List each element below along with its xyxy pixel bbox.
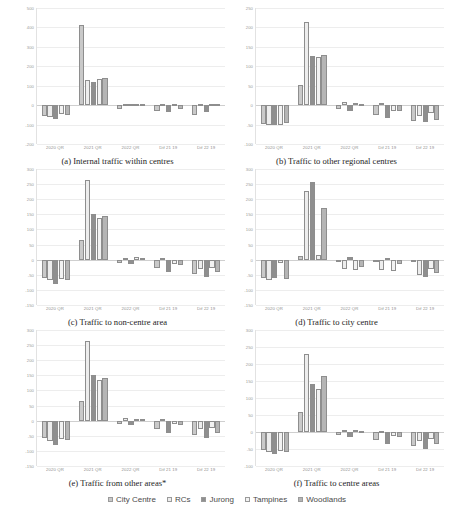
y-tick-label: 0 <box>251 430 253 435</box>
bar <box>91 82 96 105</box>
y-axis-b: 250200150100500-50-100 <box>229 8 255 144</box>
bar-slot <box>385 169 390 305</box>
bar-group <box>150 330 188 466</box>
bar <box>428 432 433 439</box>
legend-item: City Centre <box>108 495 156 504</box>
bar-slot <box>102 169 107 305</box>
bar-slot <box>278 169 283 305</box>
legend-label: RCs <box>175 495 191 504</box>
bar <box>266 260 271 280</box>
bar-group <box>369 169 407 305</box>
bar <box>209 260 214 268</box>
bar-slot <box>272 330 277 466</box>
bar-slot <box>304 8 309 144</box>
x-tick-label: 2020 QR <box>36 466 74 475</box>
bar-slot <box>91 330 96 466</box>
x-tick-label: Dif 21 19 <box>149 144 187 153</box>
chart-panel-c: 300250200150100500-50-100-1502020 QR2021… <box>8 167 227 328</box>
y-tick-label: -100 <box>25 287 34 292</box>
bar-slot <box>284 8 289 144</box>
x-tick-label: 2021 QR <box>74 144 112 153</box>
bar <box>192 260 197 275</box>
bar-slot <box>59 330 64 466</box>
bar-slot <box>134 330 139 466</box>
bar-slot <box>411 8 416 144</box>
bar-slot <box>298 169 303 305</box>
bar-slot <box>428 330 433 466</box>
bar-group <box>112 8 150 144</box>
y-tick-label: -50 <box>247 447 253 452</box>
bar-slot <box>385 330 390 466</box>
x-tick-label: Dif 22 19 <box>406 305 444 314</box>
bar-slot <box>266 8 271 144</box>
bar-slot <box>391 8 396 144</box>
legend-label: City Centre <box>116 495 156 504</box>
bar-slot <box>123 8 128 144</box>
y-tick-label: -50 <box>247 272 253 277</box>
x-tick-label: Dif 22 19 <box>187 466 225 475</box>
y-tick-label: 50 <box>248 413 253 418</box>
bar-slot <box>166 169 171 305</box>
y-tick-label: 100 <box>27 388 34 393</box>
bar-group <box>294 8 332 144</box>
panel-caption-e: (e) Traffic from other areas* <box>10 475 225 489</box>
bar-slot <box>342 8 347 144</box>
y-tick-label: 0 <box>32 103 34 108</box>
y-tick-label: 400 <box>27 25 34 30</box>
legend-swatch-icon <box>108 497 113 502</box>
bar-slot <box>385 8 390 144</box>
x-tick-label: 2021 QR <box>293 466 331 475</box>
bar <box>304 354 309 432</box>
y-tick-label: 200 <box>27 358 34 363</box>
y-tick-label: 50 <box>29 403 34 408</box>
bar-slot <box>316 330 321 466</box>
bar-slot <box>215 8 220 144</box>
bar <box>373 105 378 115</box>
bar <box>97 218 102 260</box>
bar-slot <box>65 8 70 144</box>
bar-slot <box>53 330 58 466</box>
bar-slot <box>411 330 416 466</box>
bar <box>298 256 303 260</box>
panel-grid: 5004003002001000-100-2002020 QR2021 QR20… <box>8 6 446 489</box>
bar <box>172 421 177 425</box>
bar <box>166 260 171 272</box>
bar-group <box>294 330 332 466</box>
bar <box>85 80 90 105</box>
bar-slot <box>128 169 133 305</box>
bar-group <box>406 8 444 144</box>
y-tick-label: 300 <box>27 44 34 49</box>
gridline <box>256 144 444 145</box>
bar-slot <box>428 169 433 305</box>
bar <box>336 105 341 109</box>
x-tick-label: 2021 QR <box>74 466 112 475</box>
bar <box>204 260 209 277</box>
bar-slot <box>310 8 315 144</box>
bar <box>411 105 416 121</box>
bar <box>411 260 416 262</box>
bar-slot <box>321 8 326 144</box>
bar <box>423 105 428 122</box>
bar-slot <box>417 169 422 305</box>
bar <box>128 260 133 264</box>
plot-canvas-d <box>255 169 444 305</box>
bar <box>134 419 139 421</box>
bar-slot <box>373 8 378 144</box>
bar-group <box>256 330 294 466</box>
bar <box>59 105 64 114</box>
y-tick-label: -50 <box>28 272 34 277</box>
chart-panel-a: 5004003002001000-100-2002020 QR2021 QR20… <box>8 6 227 167</box>
bar <box>178 105 183 109</box>
bar <box>178 421 183 426</box>
gridline <box>37 466 225 467</box>
bar <box>397 260 402 264</box>
bar-slot <box>321 330 326 466</box>
y-tick-label: 100 <box>246 227 253 232</box>
bar-slot <box>423 169 428 305</box>
bar-slot <box>379 169 384 305</box>
bar-slot <box>417 8 422 144</box>
bar <box>423 260 428 278</box>
y-tick-label: 0 <box>32 418 34 423</box>
x-tick-label: 2022 QR <box>112 305 150 314</box>
bar <box>172 104 177 106</box>
